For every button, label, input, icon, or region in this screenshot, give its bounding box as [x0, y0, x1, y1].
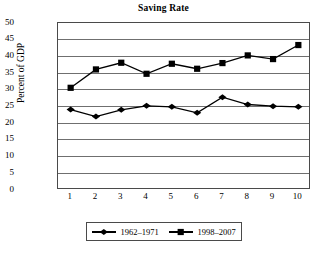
- x-tick-label: 5: [161, 192, 181, 201]
- series-1: [67, 94, 303, 119]
- legend-entry-1[interactable]: 1962–1971: [92, 227, 158, 237]
- y-tick-label: 0: [0, 185, 14, 194]
- chart-figure: Saving Rate Percent of GDP 0510152025303…: [0, 0, 327, 257]
- y-tick-label: 45: [0, 34, 14, 43]
- x-tick-label: 3: [110, 192, 130, 201]
- marker-diamond: [294, 104, 302, 110]
- marker-square: [194, 66, 200, 72]
- series-line: [71, 97, 299, 116]
- x-tick-label: 10: [287, 192, 307, 201]
- y-tick-label: 25: [0, 101, 14, 110]
- marker-diamond: [92, 114, 100, 120]
- marker-square: [295, 42, 301, 48]
- marker-diamond: [142, 103, 150, 109]
- y-tick-label: 30: [0, 84, 14, 93]
- marker-diamond: [168, 104, 176, 110]
- plot-area: [57, 22, 310, 189]
- marker-diamond: [244, 102, 252, 108]
- series-svg: [58, 23, 311, 190]
- marker-diamond: [269, 103, 277, 109]
- y-tick-label: 40: [0, 51, 14, 60]
- marker-square: [219, 60, 225, 66]
- y-tick-label: 10: [0, 151, 14, 160]
- x-tick-label: 9: [262, 192, 282, 201]
- marker-diamond: [117, 107, 125, 113]
- marker-square: [118, 60, 124, 66]
- marker-square: [270, 56, 276, 62]
- legend-entry-2[interactable]: 1998–2007: [169, 227, 235, 237]
- legend-label: 1962–1971: [118, 227, 158, 237]
- marker-square: [93, 66, 99, 72]
- marker-square: [143, 71, 149, 77]
- y-tick-label: 5: [0, 168, 14, 177]
- chart-legend: 1962–19711998–2007: [86, 222, 242, 241]
- x-tick-label: 6: [186, 192, 206, 201]
- marker-square: [68, 85, 74, 91]
- series-2: [68, 42, 302, 91]
- x-tick-label: 7: [211, 192, 231, 201]
- y-tick-label: 50: [0, 18, 14, 27]
- legend-square-icon: [169, 227, 193, 237]
- legend-label: 1998–2007: [195, 227, 235, 237]
- legend-diamond-icon: [92, 227, 116, 237]
- y-tick-label: 15: [0, 134, 14, 143]
- marker-square: [245, 52, 251, 58]
- marker-square: [169, 61, 175, 67]
- x-tick-label: 2: [85, 192, 105, 201]
- series-line: [71, 45, 299, 88]
- data-series-layer: [58, 23, 309, 188]
- y-tick-label: 20: [0, 118, 14, 127]
- x-tick-label: 4: [136, 192, 156, 201]
- x-tick-label: 8: [237, 192, 257, 201]
- x-tick-label: 1: [60, 192, 80, 201]
- y-tick-label: 35: [0, 68, 14, 77]
- marker-diamond: [67, 107, 75, 113]
